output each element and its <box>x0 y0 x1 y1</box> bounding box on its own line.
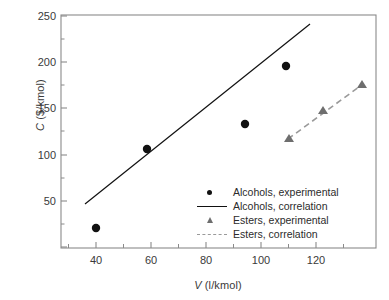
x-axis-label: V (l/kmol) <box>158 275 278 293</box>
legend-triangle-marker-icon <box>193 213 229 227</box>
legend-item-esters-experimental: Esters, experimental <box>193 213 339 227</box>
x-tick-label-40: 40 <box>76 254 116 266</box>
alcohols-correlation-line <box>85 24 310 204</box>
data-point <box>241 120 249 128</box>
y-axis-units: ($/kmol) <box>34 79 46 123</box>
y-tick-label-250: 250 <box>13 10 56 22</box>
legend-circle-marker-icon <box>193 185 229 199</box>
data-point <box>282 62 290 70</box>
data-point <box>92 224 100 232</box>
data-point <box>357 80 367 88</box>
legend-dashed-line-icon <box>193 227 229 241</box>
y-tick-label-50: 50 <box>13 195 56 207</box>
x-tick-label-80: 80 <box>186 254 226 266</box>
y-axis-label: C ($/kmol) <box>30 50 48 160</box>
legend-label: Esters, correlation <box>229 228 318 240</box>
x-tick-label-60: 60 <box>131 254 171 266</box>
legend-item-esters-correlation: Esters, correlation <box>193 227 339 241</box>
legend-label: Alcohols, experimental <box>229 186 339 198</box>
x-axis-symbol: V <box>194 279 201 291</box>
data-point <box>318 106 328 114</box>
legend-solid-line-icon <box>193 199 229 213</box>
x-tick-label-120: 120 <box>296 254 336 266</box>
legend-label: Esters, experimental <box>229 214 329 226</box>
legend-item-alcohols-correlation: Alcohols, correlation <box>193 199 339 213</box>
legend-label: Alcohols, correlation <box>229 200 328 212</box>
legend-item-alcohols-experimental: Alcohols, experimental <box>193 185 339 199</box>
y-axis-symbol: C <box>34 123 46 131</box>
x-major-ticks <box>96 242 316 248</box>
x-tick-label-100: 100 <box>241 254 281 266</box>
chart-figure: 250 200 150 100 50 40 60 80 100 120 C ($… <box>0 0 389 300</box>
x-axis-units: (l/kmol) <box>202 279 242 291</box>
data-point <box>143 145 151 153</box>
chart-legend: Alcohols, experimental Alcohols, correla… <box>193 185 339 241</box>
